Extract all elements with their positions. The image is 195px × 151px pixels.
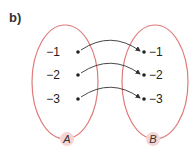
set-b-element: −1 [142, 45, 163, 59]
set-a-label: A [60, 132, 74, 146]
set-a-oval [32, 25, 98, 139]
set-b-element: −2 [142, 68, 163, 82]
set-b-oval [122, 25, 188, 139]
mapping-arrow [81, 87, 140, 98]
set-b-label: B [146, 132, 160, 146]
set-a-element: −1 [46, 45, 79, 59]
svg-text:−3: −3 [149, 92, 163, 106]
svg-text:−1: −1 [149, 45, 163, 59]
mapping-diagram: −1 −2 −3 −1 −2 −3 A B [0, 0, 195, 151]
svg-text:−3: −3 [46, 92, 60, 106]
set-a-element: −3 [46, 92, 79, 106]
mapping-arrow [81, 63, 140, 74]
set-a-element: −2 [46, 68, 79, 82]
svg-text:A: A [62, 133, 70, 145]
set-b-element: −3 [142, 92, 163, 106]
svg-text:B: B [149, 133, 156, 145]
svg-text:−2: −2 [46, 68, 60, 82]
svg-text:−2: −2 [149, 68, 163, 82]
svg-text:−1: −1 [46, 45, 60, 59]
